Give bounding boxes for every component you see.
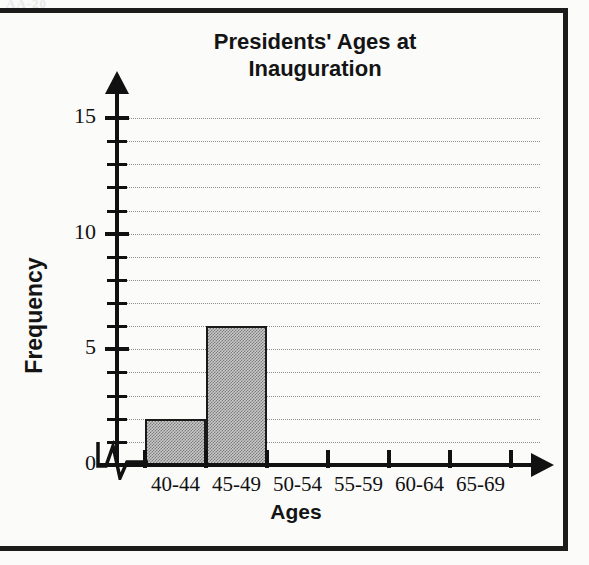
- gridline: [120, 234, 540, 236]
- x-axis-tick: [204, 450, 208, 468]
- gridline: [120, 164, 540, 166]
- x-axis-tick: [387, 450, 391, 468]
- x-axis-tick-label: 45-49: [206, 472, 267, 497]
- gridline: [120, 280, 540, 282]
- y-axis-tick-label: 10: [48, 219, 96, 245]
- gridline: [120, 257, 540, 259]
- histogram-bar: [145, 419, 206, 465]
- chart-figure: AA-20 Presidents' Ages at Inauguration 0…: [0, 0, 589, 565]
- histogram-bar: [206, 326, 267, 465]
- plot-area: 051015 40-4445-4950-5455-5960-6465-69: [0, 0, 589, 565]
- y-axis-tick-label: 0: [48, 450, 96, 476]
- gridline: [120, 396, 540, 398]
- gridline: [120, 118, 540, 120]
- y-axis-line: [115, 88, 119, 467]
- x-axis-tick-label: 60-64: [389, 472, 450, 497]
- x-axis-tick-label: 55-59: [328, 472, 389, 497]
- x-axis-tick: [448, 450, 452, 468]
- gridline: [120, 141, 540, 143]
- x-axis-line: [97, 463, 537, 467]
- y-axis-tick-label: 5: [48, 334, 96, 360]
- x-axis-arrow-icon: [531, 453, 554, 477]
- gridline: [120, 326, 540, 328]
- gridline: [120, 303, 540, 305]
- x-axis-title: Ages: [236, 500, 356, 524]
- y-axis-title: Frequency: [21, 236, 48, 396]
- gridline: [120, 187, 540, 189]
- gridline: [120, 372, 540, 374]
- x-axis-tick: [326, 450, 330, 468]
- x-axis-tick-label: 40-44: [145, 472, 206, 497]
- x-axis-tick-label: 50-54: [267, 472, 328, 497]
- y-axis-tick-label: 15: [48, 103, 96, 129]
- gridline: [120, 349, 540, 351]
- x-axis-tick: [509, 450, 513, 468]
- x-axis-tick: [143, 450, 147, 468]
- x-axis-tick-label: 65-69: [450, 472, 511, 497]
- y-axis-arrow-icon: [105, 71, 129, 94]
- gridline: [120, 211, 540, 213]
- x-axis-tick: [265, 450, 269, 468]
